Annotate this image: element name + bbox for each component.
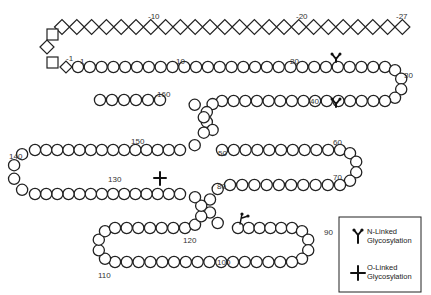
residue [286, 256, 297, 267]
residue [96, 144, 107, 155]
residue [180, 256, 191, 267]
signal-residue [84, 20, 99, 35]
residue [156, 222, 167, 233]
residue [286, 179, 297, 190]
residue [189, 99, 200, 110]
residue-number-label: 1 [80, 57, 85, 66]
signal-residue [247, 20, 262, 35]
residue [17, 184, 28, 195]
signal-residue [99, 20, 114, 35]
residue [133, 256, 144, 267]
residue [85, 144, 96, 155]
residue-number-label: 150 [131, 137, 145, 146]
residue [273, 61, 284, 72]
residue [191, 61, 202, 72]
residue [286, 95, 297, 106]
residue [251, 95, 262, 106]
residue [96, 188, 107, 199]
residue [251, 256, 262, 267]
residue [155, 61, 166, 72]
residue [74, 188, 85, 199]
residue [298, 95, 309, 106]
residue [109, 222, 120, 233]
residue [356, 61, 367, 72]
residue [310, 179, 321, 190]
residue [232, 222, 243, 233]
residue-number-label: 140 [9, 152, 23, 161]
residue [9, 173, 20, 184]
residue-number-label: 40 [310, 97, 319, 106]
residue [252, 144, 263, 155]
residue [299, 144, 310, 155]
residue [311, 144, 322, 155]
signal-residue [158, 20, 173, 35]
residue-number-label: 60 [333, 138, 342, 147]
residue [106, 94, 117, 105]
protein-topology-diagram: -10-20-27-111020304050607080901001101201… [0, 0, 431, 295]
residue [142, 94, 153, 105]
residue [121, 222, 132, 233]
residue [157, 256, 168, 267]
residue-number-label: -1 [66, 54, 74, 63]
residue-number-label: -20 [296, 12, 308, 21]
residue [275, 95, 286, 106]
residue [130, 94, 141, 105]
residue [273, 179, 284, 190]
residue [121, 256, 132, 267]
residue [29, 144, 40, 155]
residue [168, 256, 179, 267]
residue [189, 140, 200, 151]
residue-number-label: -10 [148, 12, 160, 21]
residue [108, 144, 119, 155]
residue [63, 144, 74, 155]
residue [152, 188, 163, 199]
signal-residue [217, 20, 232, 35]
residue [212, 217, 223, 228]
residue [275, 144, 286, 155]
residue [356, 95, 367, 106]
residue [379, 95, 390, 106]
residue-number-label: 130 [108, 175, 122, 184]
residue [130, 188, 141, 199]
residue [145, 256, 156, 267]
residue-number-label: -27 [396, 12, 408, 21]
residue [141, 188, 152, 199]
residue [41, 188, 52, 199]
residue [163, 188, 174, 199]
residue [351, 156, 362, 167]
residue [204, 256, 215, 267]
residue [320, 61, 331, 72]
residue [321, 95, 332, 106]
residue-number-label: 110 [98, 271, 111, 280]
residue [250, 61, 261, 72]
residue [96, 61, 107, 72]
residue [143, 61, 154, 72]
residue [263, 256, 274, 267]
residue [254, 222, 265, 233]
signal-residue [188, 20, 203, 35]
residue [249, 179, 260, 190]
legend-o-linked-line1: O-Linked [367, 263, 397, 272]
residue [243, 222, 254, 233]
signal-residue [380, 20, 395, 35]
residue [298, 179, 309, 190]
residue [368, 95, 379, 106]
signal-residue [47, 29, 58, 40]
residue [163, 144, 174, 155]
legend-n-linked-line2: Glycosylation [367, 236, 412, 245]
residue [202, 61, 213, 72]
residue-number-label: 100 [217, 258, 231, 267]
legend: N-Linked Glycosylation O-Linked Glycosyl… [339, 217, 421, 292]
signal-residue [277, 20, 292, 35]
residue [332, 61, 343, 72]
signal-residue [129, 20, 144, 35]
residue-number-label: 20 [290, 57, 299, 66]
signal-residue [365, 20, 380, 35]
residue [344, 61, 355, 72]
residue [52, 188, 63, 199]
legend-o-linked-line2: Glycosylation [367, 272, 412, 281]
residue [9, 160, 20, 171]
residue-number-label: 10 [176, 57, 185, 66]
signal-residue [69, 20, 84, 35]
residue [345, 95, 356, 106]
